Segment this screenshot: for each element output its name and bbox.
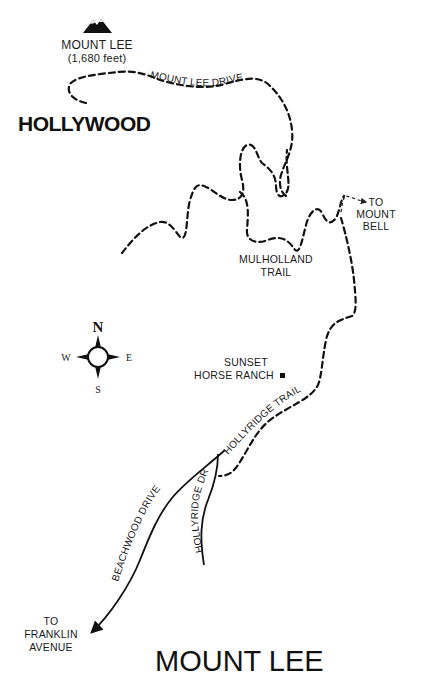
peak-name-label: MOUNT LEE (61, 38, 133, 52)
peak-elevation-label: (1,680 feet) (68, 52, 127, 64)
mulholland-trail-label-2: TRAIL (261, 266, 292, 278)
compass-west-label: W (61, 352, 71, 363)
mount-bell-line1: TO (369, 196, 384, 208)
trail-map: MOUNT LEE (1,680 feet) MOUNT LEE DRIVE H… (0, 0, 430, 698)
mount-bell-line2: MOUNT (356, 208, 396, 220)
compass-east-label: E (126, 352, 132, 363)
compass-rose-icon (76, 335, 120, 379)
map-title: MOUNT LEE (155, 645, 324, 677)
mountain-peak-icon (83, 19, 112, 33)
franklin-label-line2: FRANKLIN (24, 628, 78, 640)
compass-south-label: S (95, 384, 101, 395)
ranch-label-line1: SUNSET (224, 356, 268, 368)
compass-north-label: N (93, 319, 104, 335)
hollywood-sign-label: HOLLYWOOD (18, 112, 151, 135)
hollyridge-trail-label: HOLLYRIDGE TRAIL (221, 383, 302, 456)
franklin-label-line3: AVENUE (29, 641, 73, 653)
mulholland-trail-path (122, 145, 288, 253)
mulholland-trail-label-1: MULHOLLAND (239, 253, 313, 265)
ranch-label-line2: HORSE RANCH (194, 369, 274, 381)
mount-bell-line3: BELL (363, 220, 390, 232)
hollyridge-dr-label: HOLLYRIDGE DR (189, 467, 211, 554)
mulholland-trail-east-path (240, 192, 344, 251)
mount-lee-drive-label: MOUNT LEE DRIVE (150, 69, 244, 88)
franklin-label-line1: TO (44, 615, 59, 627)
ranch-marker-icon (280, 373, 285, 378)
